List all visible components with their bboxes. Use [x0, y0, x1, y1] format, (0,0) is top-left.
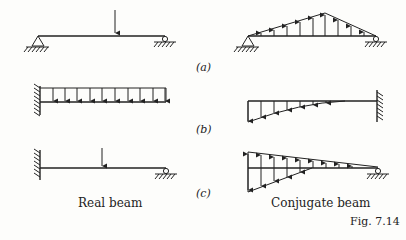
caption-conjugate-beam: Conjugate beam — [271, 196, 370, 210]
row-label-c: (c) — [196, 187, 211, 200]
caption-real-beam: Real beam — [78, 196, 142, 210]
conjugate-beam-b — [248, 90, 383, 122]
real-beam-b — [34, 84, 166, 116]
row-label-a: (a) — [196, 61, 211, 74]
real-beam-c — [34, 148, 177, 180]
real-beam-a — [24, 10, 176, 52]
row-label-b: (b) — [196, 123, 212, 136]
figure-number: Fig. 7.14 — [350, 215, 400, 228]
conjugate-beam-a — [234, 13, 387, 52]
conjugate-beam-c — [248, 152, 389, 192]
